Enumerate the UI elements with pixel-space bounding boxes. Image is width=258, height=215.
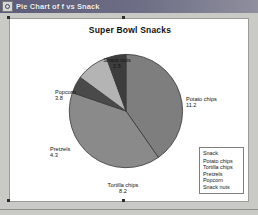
legend-title: Snack <box>203 150 240 156</box>
chart-window-icon <box>2 1 13 12</box>
pie-label-snack-nuts-value: 2.5 <box>92 63 142 69</box>
window-title-bar[interactable]: Pie Chart of f vs Snack <box>0 0 258 13</box>
resize-handle-bottom-left[interactable] <box>7 199 10 202</box>
window-bottom-divider <box>0 209 258 210</box>
resize-handle-top-left[interactable] <box>7 16 10 19</box>
pie-label-pretzels-value: 4.3 <box>50 152 70 158</box>
pie-label-pretzels: Pretzels 4.3 <box>50 146 70 159</box>
resize-handle-bottom-middle[interactable] <box>122 199 125 202</box>
chart-legend[interactable]: Snack Potato chips Tortilla chips Pretze… <box>199 147 244 194</box>
legend-item-potato-chips[interactable]: Potato chips <box>203 158 240 165</box>
pie-label-potato-chips: Potato chips 11.2 <box>186 96 217 109</box>
pie-label-popcorn: Popcorn 3.8 <box>55 89 76 102</box>
resize-handle-top-middle[interactable] <box>122 16 125 19</box>
pie-label-snack-nuts: Snack nuts 2.5 <box>92 57 142 70</box>
pie-label-popcorn-value: 3.8 <box>55 95 76 101</box>
legend-item-pretzels[interactable]: Pretzels <box>203 171 240 178</box>
window-client-area: Super Bowl Snacks <box>0 13 258 215</box>
pie-label-tortilla-chips-name: Tortilla chips <box>108 182 139 188</box>
application-window: Pie Chart of f vs Snack Super Bowl Snack… <box>0 0 258 215</box>
window-title: Pie Chart of f vs Snack <box>16 2 100 11</box>
pie-label-popcorn-name: Popcorn <box>55 89 76 95</box>
pie-label-snack-nuts-name: Snack nuts <box>103 57 131 63</box>
pie-label-pretzels-name: Pretzels <box>50 146 70 152</box>
pie-label-potato-chips-name: Potato chips <box>186 96 217 102</box>
legend-item-popcorn[interactable]: Popcorn <box>203 177 240 184</box>
graph-frame[interactable]: Super Bowl Snacks <box>9 18 249 202</box>
pie-label-potato-chips-value: 11.2 <box>186 102 217 108</box>
window-bottom-strip <box>0 205 258 215</box>
legend-item-snack-nuts[interactable]: Snack nuts <box>203 184 240 191</box>
pie-slices <box>69 54 182 167</box>
legend-item-tortilla-chips[interactable]: Tortilla chips <box>203 164 240 171</box>
pie-label-tortilla-chips-value: 8.2 <box>96 188 150 194</box>
pie-label-tortilla-chips: Tortilla chips 8.2 <box>96 182 150 195</box>
